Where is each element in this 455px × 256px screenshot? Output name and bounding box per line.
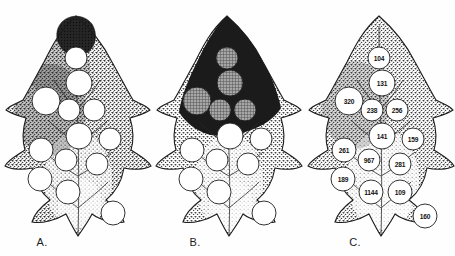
- leaf-circle: [217, 70, 243, 96]
- leaf-circle: [83, 99, 105, 121]
- circle-value-label: 238: [367, 107, 378, 114]
- circle-value-label: 160: [420, 213, 431, 220]
- circle-value-label: 967: [364, 157, 375, 164]
- leaf-circle: [55, 149, 77, 171]
- circle-value-label: 131: [377, 80, 388, 87]
- leaf-circle: [65, 47, 87, 69]
- circle-value-label: 1144: [364, 189, 378, 196]
- circle-value-label: 256: [392, 107, 403, 114]
- circle-value-label: 261: [339, 147, 350, 154]
- circle-value-label: 109: [395, 189, 406, 196]
- leaf-circle: [58, 99, 80, 121]
- leaf-circle: [101, 201, 125, 225]
- leaf-diagram-a: [0, 0, 152, 256]
- leaf-circle: [217, 123, 243, 149]
- leaf-diagram-c: 1041313202382561411592619672811891144109…: [303, 0, 455, 256]
- leaf-circle: [206, 149, 228, 171]
- leaf-circle: [179, 167, 203, 191]
- leaf-circle: [250, 128, 272, 150]
- panel-c: 1041313202382561411592619672811891144109…: [303, 0, 455, 256]
- circle-value-label: 189: [338, 176, 349, 183]
- panel-a: A.: [0, 0, 152, 256]
- circle-value-label: 281: [395, 161, 406, 168]
- circle-value-label: 104: [374, 55, 385, 62]
- leaf-circle: [180, 138, 204, 162]
- leaf-circle: [252, 201, 276, 225]
- panel-b: B.: [151, 0, 303, 256]
- circle-value-label: 141: [377, 133, 388, 140]
- leaf-circle: [66, 70, 92, 96]
- leaf-circle: [99, 128, 121, 150]
- leaf-circle: [28, 167, 52, 191]
- leaf-circle: [66, 123, 92, 149]
- leaf-circle: [56, 180, 80, 204]
- leaf-circle: [86, 153, 108, 175]
- circle-value-label: 320: [344, 98, 355, 105]
- figure-container: A.: [0, 0, 455, 256]
- circle-value-label: 159: [408, 136, 419, 143]
- leaf-circle: [29, 138, 53, 162]
- leaf-circle: [216, 47, 238, 69]
- leaf-circle: [207, 180, 231, 204]
- leaf-circle: [234, 99, 256, 121]
- leaf-circle: [32, 87, 60, 115]
- leaf-circle: [237, 153, 259, 175]
- leaf-diagram-b: [151, 0, 303, 256]
- leaf-circle: [183, 87, 211, 115]
- leaf-circle: [209, 99, 231, 121]
